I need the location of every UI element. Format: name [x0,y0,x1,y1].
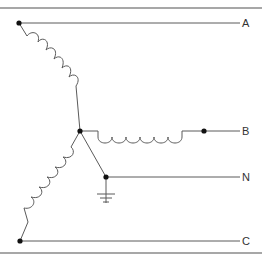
neutral-link [80,131,106,177]
coil-b-icon [80,131,240,143]
node-a [16,20,21,25]
wye-diagram: A B N C [0,0,262,260]
coil-a-icon [19,23,80,131]
node-n [103,174,108,179]
ground-icon [97,177,115,203]
terminal-label-b: B [242,125,249,137]
node-b [201,128,206,133]
node-c [17,238,22,243]
terminal-label-c: C [242,235,250,247]
coil-c-icon [20,131,80,241]
terminal-label-n: N [242,171,250,183]
terminal-label-a: A [242,17,250,29]
node-center [77,128,82,133]
